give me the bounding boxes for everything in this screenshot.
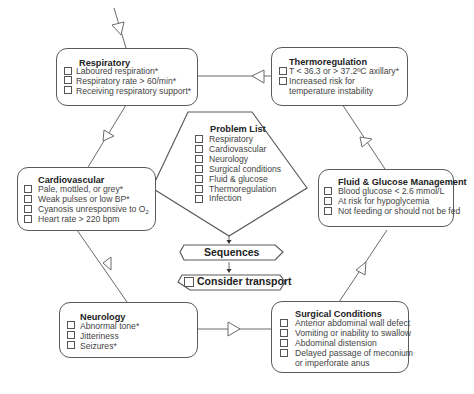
neurology-checkbox-3[interactable] [67, 341, 75, 349]
neurology-item-3: Seizures* [80, 341, 117, 351]
cardiovascular-item-4: Heart rate > 220 bpm [38, 214, 119, 224]
respiratory-checkbox-1[interactable] [64, 67, 72, 75]
neurology-box: Neurology Abnormal tone* Jitteriness Sei… [59, 302, 198, 358]
surgical-checkbox-4[interactable] [280, 349, 288, 357]
neurology-checkbox-2[interactable] [67, 331, 75, 339]
cardiovascular-checkbox-4[interactable] [24, 215, 32, 223]
surgical-item-2: Vomiting or inability to swallow [295, 328, 411, 338]
surgical-checkbox-2[interactable] [280, 329, 288, 337]
problem-list-checkbox-4[interactable] [195, 165, 203, 173]
surgical-item-1: Anterior abdominal wall defect [295, 318, 410, 328]
cardiovascular-item-3-text: Cyanosis unresponsive to O [38, 204, 145, 214]
problem-list-checkbox-3[interactable] [195, 155, 203, 163]
arrow-down-icon [227, 269, 232, 273]
fluid-glucose-checkbox-3[interactable] [324, 207, 332, 215]
cardiovascular-item-3: Cyanosis unresponsive to O2 [38, 204, 149, 214]
thermoregulation-item-2: Increased risk for [289, 76, 355, 86]
neurology-item-1: Abnormal tone* [80, 321, 139, 331]
sequences-label: Sequences [204, 246, 259, 258]
problem-list-checkbox-1[interactable] [195, 135, 203, 143]
problem-list-item-4: Surgical conditions [209, 164, 281, 174]
problem-list-checkbox-2[interactable] [195, 145, 203, 153]
thermoregulation-item-2-cont: temperature instability [289, 86, 373, 96]
fluid-glucose-checkbox-2[interactable] [324, 197, 332, 205]
thermoregulation-item-1: T < 36.3 or > 37.2ºC axillary* [289, 66, 399, 76]
arrow-down-icon [227, 240, 232, 244]
cardiovascular-item-1: Pale, mottled, or grey* [38, 184, 123, 194]
respiratory-box: Respiratory Laboured respiration* Respir… [56, 48, 198, 106]
arrow-neuro-surgical-icon [228, 322, 240, 336]
subscript-2: 2 [145, 209, 148, 215]
surgical-checkbox-1[interactable] [280, 319, 288, 327]
surgical-conditions-box: Surgical Conditions Anterior abdominal w… [271, 301, 409, 373]
cardiovascular-checkbox-1[interactable] [24, 185, 32, 193]
neurology-checkbox-1[interactable] [67, 321, 75, 329]
fluid-glucose-item-2: At risk for hypoglycemia [338, 196, 429, 206]
thermoregulation-checkbox-1[interactable] [279, 67, 287, 75]
problem-list-item-2: Cardiovascular [209, 144, 266, 154]
problem-list-item-1: Respiratory [209, 134, 253, 144]
thermoregulation-checkbox-2[interactable] [279, 77, 287, 85]
respiratory-item-1: Laboured respiration* [76, 66, 158, 76]
respiratory-item-2: Respiratory rate > 60/min* [76, 76, 176, 86]
problem-list-checkbox-5[interactable] [195, 175, 203, 183]
problem-list-item-7: Infection [209, 193, 242, 203]
problem-list-checkbox-6[interactable] [195, 185, 203, 193]
respiratory-checkbox-3[interactable] [64, 86, 72, 94]
consider-transport-checkbox[interactable] [184, 277, 194, 287]
fluid-glucose-item-1: Blood glucose < 2.6 mmol/L [338, 186, 444, 196]
arrow-cardio-neuro-icon [103, 257, 111, 270]
fluid-glucose-box: Fluid & Glucose Management Blood glucose… [318, 169, 454, 227]
problem-list-item-5: Fluid & glucose [209, 174, 268, 184]
problem-list-item-3: Neurology [209, 154, 248, 164]
fluid-glucose-checkbox-1[interactable] [324, 187, 332, 195]
respiratory-item-3: Receiving respiratory support* [76, 86, 191, 96]
surgical-item-4-cont: or imperforate anus [295, 358, 370, 368]
fluid-glucose-item-3: Not feeding or should not be fed [338, 206, 460, 216]
cardiovascular-checkbox-2[interactable] [24, 195, 32, 203]
cardiovascular-checkbox-3[interactable] [24, 205, 32, 213]
arrow-resp-cardio-icon [103, 130, 114, 141]
thermoregulation-box: Thermoregulation T < 36.3 or > 37.2ºC ax… [271, 47, 408, 106]
surgical-checkbox-3[interactable] [280, 339, 288, 347]
cardiovascular-box: Cardiovascular Pale, mottled, or grey* W… [17, 167, 156, 231]
respiratory-checkbox-2[interactable] [64, 76, 72, 84]
cardiovascular-item-2: Weak pulses or low BP* [38, 194, 130, 204]
arrow-fluid-thermo-icon [360, 137, 372, 147]
surgical-item-3: Abdominal distension [295, 338, 377, 348]
arrow-entry-icon [112, 22, 124, 35]
problem-list-title: Problem List [210, 124, 266, 134]
surgical-item-4: Delayed passage of meconium [295, 348, 413, 358]
problem-list-checkbox-7[interactable] [195, 195, 203, 203]
neurology-item-2: Jitteriness [80, 331, 119, 341]
consider-transport-label: Consider transport [197, 275, 292, 287]
arrow-thermo-resp-icon [252, 70, 264, 83]
